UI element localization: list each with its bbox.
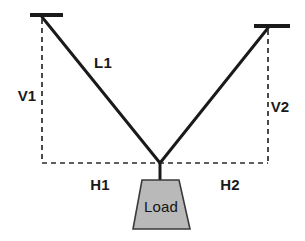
label-v2: V2 <box>271 99 290 114</box>
label-l1: L1 <box>94 55 112 70</box>
sling-leg-right <box>160 28 268 163</box>
sling-leg-left <box>42 17 160 163</box>
label-h1: H1 <box>90 177 110 192</box>
label-v1: V1 <box>18 88 37 103</box>
load-label: Load <box>144 199 178 214</box>
sling-load-diagram: L1 V1 V2 H1 H2 Load <box>0 0 305 241</box>
label-h2: H2 <box>220 177 240 192</box>
